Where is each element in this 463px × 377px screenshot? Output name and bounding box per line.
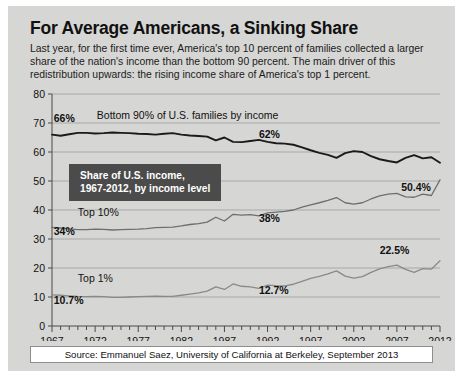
page-title: For Average Americans, a Sinking Share (30, 18, 442, 38)
svg-text:70: 70 (33, 117, 45, 129)
svg-text:1982: 1982 (170, 335, 194, 341)
svg-text:2007: 2007 (385, 335, 409, 341)
svg-text:50: 50 (33, 175, 45, 187)
source-text: Source: Emmanuel Saez, University of Cal… (65, 349, 399, 360)
svg-text:Top 1%: Top 1% (78, 272, 113, 284)
svg-text:12.7%: 12.7% (259, 284, 289, 296)
svg-text:66%: 66% (54, 112, 76, 124)
svg-text:38%: 38% (259, 212, 281, 224)
x-tick-labels: 1967197219771982198719921997200220072012 (40, 335, 452, 341)
svg-text:1972: 1972 (83, 335, 107, 341)
svg-text:1987: 1987 (213, 335, 237, 341)
svg-text:22.5%: 22.5% (380, 244, 410, 256)
svg-text:10: 10 (33, 291, 45, 303)
svg-text:50.4%: 50.4% (401, 181, 431, 193)
source-box: Source: Emmanuel Saez, University of Cal… (30, 346, 433, 363)
svg-text:2002: 2002 (342, 335, 366, 341)
chart-area: 01020304050607080 1967197219771982198719… (8, 86, 455, 341)
svg-text:1997: 1997 (299, 335, 323, 341)
svg-text:80: 80 (33, 88, 45, 100)
svg-text:Bottom 90% of U.S. families by: Bottom 90% of U.S. families by income (97, 109, 279, 121)
callout-box: Share of U.S. income, 1967-2012, by inco… (69, 164, 221, 201)
deck-paragraph: Last year, for the first time ever, Amer… (30, 42, 440, 82)
svg-text:60: 60 (33, 146, 45, 158)
svg-text:62%: 62% (259, 128, 281, 140)
svg-text:1977: 1977 (127, 335, 151, 341)
infographic-card: For Average Americans, a Sinking Share L… (8, 6, 455, 371)
svg-text:1992: 1992 (256, 335, 280, 341)
svg-text:Top 10%: Top 10% (78, 206, 119, 218)
svg-text:30: 30 (33, 233, 45, 245)
svg-text:34%: 34% (54, 225, 76, 237)
line-chart: 01020304050607080 1967197219771982198719… (8, 86, 455, 341)
y-tick-labels: 01020304050607080 (33, 88, 52, 332)
svg-text:2012: 2012 (428, 335, 452, 341)
svg-text:1967: 1967 (40, 335, 64, 341)
svg-text:0: 0 (39, 320, 45, 332)
x-tick-marks (52, 326, 440, 332)
svg-text:20: 20 (33, 262, 45, 274)
svg-text:10.7%: 10.7% (54, 294, 84, 306)
svg-text:40: 40 (33, 204, 45, 216)
